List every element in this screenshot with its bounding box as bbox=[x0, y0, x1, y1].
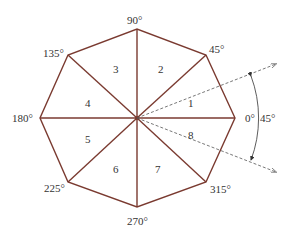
sector-label: 3 bbox=[113, 63, 119, 75]
angle-annotation-label: 45° bbox=[260, 112, 275, 124]
vertex-label: 270° bbox=[127, 215, 148, 227]
sector-label: 5 bbox=[85, 133, 91, 145]
vertex-label: 0° bbox=[245, 112, 255, 124]
spoke-315 bbox=[137, 118, 206, 182]
sector-label: 2 bbox=[158, 63, 164, 75]
sector-label: 8 bbox=[188, 129, 194, 141]
sector-label: 6 bbox=[113, 163, 119, 175]
spoke-135 bbox=[68, 55, 137, 118]
vertex-label: 315° bbox=[210, 183, 231, 195]
vertex-label: 90° bbox=[127, 14, 142, 26]
spoke-45 bbox=[137, 55, 206, 118]
vertex-label: 180° bbox=[12, 112, 33, 124]
spoke-225 bbox=[68, 118, 137, 182]
vertex-label: 45° bbox=[209, 43, 224, 55]
sector-label: 1 bbox=[188, 97, 194, 109]
octagon-diagram: 0° 45° 90° 135° 180° 225° 270° 315° 1 2 … bbox=[0, 0, 291, 237]
vertex-label: 225° bbox=[44, 182, 65, 194]
sector-label: 4 bbox=[85, 97, 91, 109]
vertex-label: 135° bbox=[43, 47, 64, 59]
sector-label: 7 bbox=[155, 163, 161, 175]
